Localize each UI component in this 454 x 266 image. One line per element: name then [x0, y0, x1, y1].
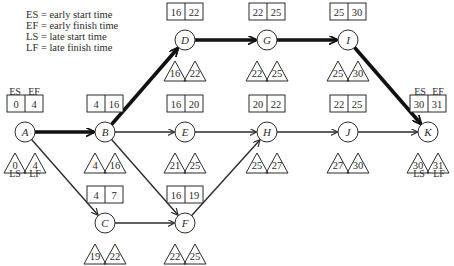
- es-value: 4: [93, 190, 99, 201]
- node-f: 1619F2225: [164, 186, 206, 264]
- node-label: H: [262, 126, 272, 138]
- ls-value: 19: [90, 251, 101, 262]
- es-value: 0: [13, 99, 18, 110]
- lf-value: 16: [110, 160, 121, 171]
- node-h: 2022H2527: [246, 95, 288, 173]
- node-label: F: [181, 217, 189, 229]
- ef-value: 19: [189, 190, 200, 201]
- ef-value: 22: [189, 7, 200, 18]
- caption-lf-a: LF: [29, 168, 41, 179]
- lf-value: 30: [353, 68, 364, 79]
- ls-value: 22: [252, 68, 263, 79]
- es-value: 30: [414, 99, 425, 110]
- ef-value: 4: [31, 99, 37, 110]
- ls-value: 4: [92, 160, 98, 171]
- ef-value: 25: [271, 7, 282, 18]
- lf-value: 30: [353, 160, 364, 171]
- network-diagram: 04A04416B41647C19221622D16221620E2125161…: [0, 0, 454, 266]
- es-value: 22: [334, 99, 345, 110]
- caption-ls-a: LS: [9, 168, 21, 179]
- es-value: 16: [171, 190, 182, 201]
- caption-ef-k: EF: [432, 86, 444, 97]
- caption-ef-a: EF: [28, 86, 40, 97]
- node-a: 04A04: [4, 95, 46, 173]
- ef-value: 16: [109, 99, 120, 110]
- edge-f-h: [192, 140, 260, 215]
- ef-value: 7: [111, 190, 116, 201]
- es-value: 4: [93, 99, 99, 110]
- caption-es-a: ES: [9, 86, 21, 97]
- node-label: D: [180, 34, 189, 46]
- ls-value: 25: [333, 68, 344, 79]
- edge-b-d: [112, 48, 178, 124]
- caption-es-k: ES: [414, 86, 426, 97]
- node-c: 47C1922: [84, 186, 126, 264]
- lf-value: 25: [190, 251, 201, 262]
- ef-value: 22: [271, 99, 282, 110]
- node-label: K: [423, 126, 432, 138]
- node-k: 3031K3031: [407, 95, 449, 173]
- es-value: 25: [334, 7, 345, 18]
- node-label: E: [181, 126, 189, 138]
- caption-lf-k: LF: [433, 168, 445, 179]
- lf-value: 22: [110, 251, 121, 262]
- ls-value: 25: [252, 160, 263, 171]
- node-d: 1622D1622: [164, 3, 206, 81]
- lf-value: 25: [190, 160, 201, 171]
- ls-value: 16: [170, 68, 181, 79]
- node-g: 2225G2225: [246, 3, 288, 81]
- lf-value: 25: [272, 68, 283, 79]
- ls-value: 21: [170, 160, 181, 171]
- es-value: 16: [171, 7, 182, 18]
- node-label: G: [263, 34, 271, 46]
- ef-value: 31: [432, 99, 443, 110]
- node-label: C: [101, 217, 109, 229]
- node-e: 1620E2125: [164, 95, 206, 173]
- ef-value: 30: [352, 7, 363, 18]
- caption-ls-k: LS: [413, 168, 425, 179]
- node-i: 2530I2530: [327, 3, 369, 81]
- lf-value: 27: [272, 160, 283, 171]
- node-b: 416B416: [84, 95, 126, 173]
- node-label: A: [21, 126, 29, 138]
- ef-value: 20: [189, 99, 200, 110]
- node-label: B: [102, 126, 109, 138]
- es-value: 22: [253, 7, 264, 18]
- ef-value: 25: [352, 99, 363, 110]
- es-value: 20: [253, 99, 264, 110]
- node-j: 2225J2730: [327, 95, 369, 173]
- ls-value: 22: [170, 251, 181, 262]
- ls-value: 27: [333, 160, 344, 171]
- es-value: 16: [171, 99, 182, 110]
- lf-value: 22: [190, 68, 201, 79]
